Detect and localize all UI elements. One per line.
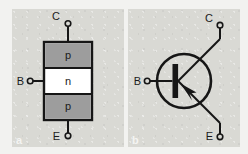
collector-lead-b — [178, 39, 220, 81]
region-label-p-bottom: p — [65, 100, 71, 112]
emitter-label-b: E — [206, 130, 213, 142]
panel-b-caption: b — [132, 135, 139, 146]
region-label-p-top: p — [65, 49, 71, 61]
collector-label-b: C — [205, 12, 213, 24]
collector-terminal-node-a — [65, 21, 71, 27]
emitter-terminal-node-a — [65, 133, 71, 139]
panel-b-diagram: B C E — [128, 9, 240, 147]
collector-label-a: C — [52, 10, 60, 22]
base-label-a: B — [17, 75, 24, 87]
panel-b-circuit-symbol: B C E b — [128, 9, 240, 147]
base-terminal-node-a — [27, 78, 33, 84]
region-label-n: n — [65, 75, 71, 87]
base-label-b: B — [134, 75, 141, 87]
figure-root: C p n p B E a — [0, 0, 248, 154]
emitter-terminal-node-b — [217, 134, 223, 140]
panel-a-caption: a — [16, 135, 22, 146]
emitter-label-a: E — [53, 130, 60, 142]
panel-a-diagram: C p n p B E — [12, 9, 124, 147]
collector-terminal-node-b — [217, 22, 223, 28]
base-bar — [173, 64, 179, 98]
panel-a-layer-structure: C p n p B E a — [12, 9, 124, 147]
base-terminal-node-b — [144, 78, 150, 84]
